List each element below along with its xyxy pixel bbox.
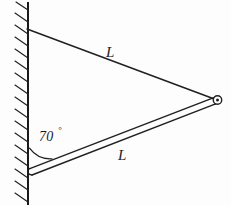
angle-arc-group (30, 148, 53, 159)
cable-line (27, 29, 213, 99)
cable-length-label: L (105, 44, 115, 60)
pin-joint-dot (216, 99, 219, 102)
pin-joint-group (213, 96, 221, 104)
diagram-canvas: 70 ° L L (0, 0, 231, 205)
cable-group (27, 29, 213, 99)
angle-arc (30, 148, 53, 159)
wall-group (15, 2, 28, 205)
beam-left-cap (28, 169, 32, 175)
beam-group (28, 97, 217, 175)
beam-length-label: L (117, 147, 127, 163)
angle-label: 70 (39, 129, 53, 144)
beam-lower-edge (32, 104, 216, 175)
degree-symbol-icon: ° (58, 125, 62, 135)
beam-cable-diagram: 70 ° L L (0, 0, 231, 205)
wall-hatching-group (15, 2, 28, 202)
